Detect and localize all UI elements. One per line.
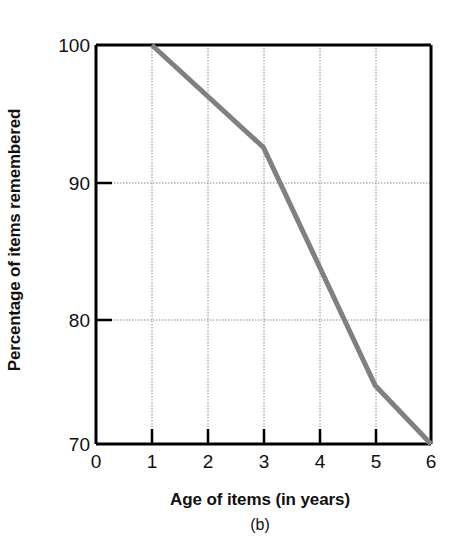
- panel-label: (b): [60, 516, 460, 534]
- x-axis-title: Age of items (in years): [60, 490, 460, 510]
- x-tick-label-4: 4: [300, 452, 340, 471]
- x-tick-label-5: 5: [356, 452, 396, 471]
- x-tick-label-0: 0: [76, 452, 116, 471]
- chart-figure: Percentage of items remembered 100 90 80…: [0, 0, 461, 558]
- x-tick-label-2: 2: [188, 452, 228, 471]
- x-tick-label-1: 1: [132, 452, 172, 471]
- x-tick-label-group: 0 1 2 3 4 5 6: [0, 0, 461, 558]
- x-tick-label-6: 6: [411, 452, 451, 471]
- x-tick-label-3: 3: [244, 452, 284, 471]
